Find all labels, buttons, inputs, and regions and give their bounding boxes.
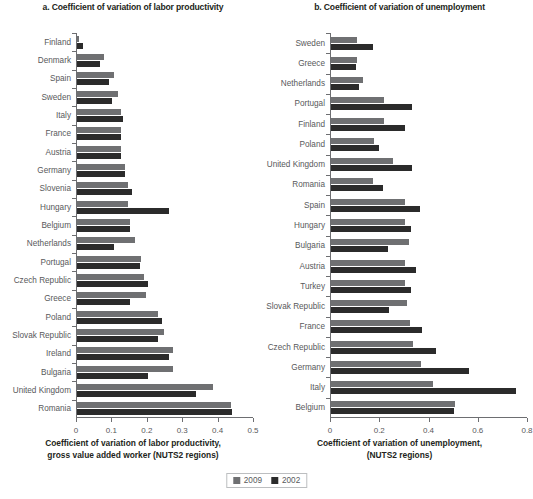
- x-tick: [330, 418, 331, 422]
- y-tick: [72, 235, 76, 236]
- bar-2002: [77, 43, 83, 49]
- bar-2002: [331, 165, 412, 171]
- category-label: Finland: [298, 118, 325, 132]
- bar-2009: [77, 146, 121, 152]
- bar-2002: [77, 391, 196, 397]
- bar-2009: [77, 91, 118, 97]
- bar-2002: [331, 348, 436, 354]
- bar-2009: [77, 201, 128, 207]
- bar-group: Finland: [331, 118, 528, 131]
- category-label: Italy: [56, 109, 71, 123]
- x-tick-label: 0.3: [177, 426, 188, 435]
- bar-2009: [331, 320, 410, 326]
- x-tick-label: 0: [74, 426, 78, 435]
- bar-2002: [331, 287, 411, 293]
- category-label: Belgium: [295, 401, 325, 415]
- category-label: Portugal: [41, 256, 72, 270]
- y-tick: [326, 74, 330, 75]
- bar-2009: [331, 97, 384, 103]
- bar-2002: [77, 153, 121, 159]
- bar-2009: [77, 311, 158, 317]
- bar-2002: [77, 171, 125, 177]
- bar-group: Hungary: [331, 219, 528, 232]
- bar-group: Italy: [331, 381, 528, 394]
- y-tick: [326, 256, 330, 257]
- bar-2009: [331, 239, 409, 245]
- x-tick: [527, 418, 528, 422]
- y-tick: [72, 51, 76, 52]
- bar-2009: [77, 366, 173, 372]
- category-label: Slovak Republic: [266, 300, 325, 314]
- bar-group: France: [77, 127, 254, 140]
- bar-2009: [77, 402, 231, 408]
- panel-a-x-axis: [76, 417, 253, 418]
- y-tick: [72, 253, 76, 254]
- bar-2002: [331, 327, 422, 333]
- bar-group: Slovak Republic: [77, 329, 254, 342]
- bar-group: Portugal: [331, 97, 528, 110]
- legend-swatch: [233, 477, 240, 484]
- y-tick: [326, 215, 330, 216]
- bar-2009: [331, 401, 455, 407]
- category-label: Denmark: [38, 54, 71, 68]
- category-label: United Kingdom: [13, 384, 71, 398]
- bar-2002: [331, 104, 412, 110]
- bar-2002: [77, 208, 169, 214]
- bar-group: Spain: [77, 72, 254, 85]
- category-label: Bulgaria: [41, 366, 71, 380]
- chart-panel-b: b. Coefficient of variation of unemploym…: [266, 0, 533, 470]
- bar-2009: [331, 361, 421, 367]
- y-tick: [72, 381, 76, 382]
- bar-2002: [77, 354, 169, 360]
- bar-group: Turkey: [331, 280, 528, 293]
- bar-group: United Kingdom: [331, 158, 528, 171]
- y-tick: [72, 308, 76, 309]
- y-tick: [326, 114, 330, 115]
- y-tick: [72, 326, 76, 327]
- bar-group: Greece: [331, 57, 528, 70]
- y-tick: [72, 143, 76, 144]
- bar-2009: [77, 164, 125, 170]
- bar-2002: [77, 318, 162, 324]
- bar-2009: [331, 178, 373, 184]
- bar-2002: [77, 61, 100, 67]
- category-label: Austria: [46, 146, 71, 160]
- figure-root: a. Coefficient of variation of labor pro…: [0, 0, 533, 499]
- bar-2002: [331, 267, 416, 273]
- category-label: Romania: [292, 178, 325, 192]
- y-tick: [326, 276, 330, 277]
- bar-group: Italy: [77, 109, 254, 122]
- bar-2009: [77, 219, 130, 225]
- bar-2002: [77, 189, 132, 195]
- bar-2002: [331, 368, 469, 374]
- bar-2002: [331, 226, 411, 232]
- category-label: Czech Republic: [268, 341, 325, 355]
- bar-2002: [77, 409, 232, 415]
- y-tick: [326, 236, 330, 237]
- bar-group: United Kingdom: [77, 384, 254, 397]
- panel-b-title: b. Coefficient of variation of unemploym…: [266, 2, 533, 12]
- category-label: Hungary: [40, 201, 71, 215]
- panel-b-x-axis-caption-line2: (NUTS2 regions): [266, 450, 533, 462]
- panel-a-x-axis-caption: Coefficient of variation of labor produc…: [0, 438, 266, 461]
- bar-2002: [77, 98, 112, 104]
- bar-2002: [331, 246, 388, 252]
- bar-group: Belgium: [77, 219, 254, 232]
- bar-group: Romania: [331, 178, 528, 191]
- panel-b-plot-area: 00.20.40.60.8SwedenGreeceNetherlandsPort…: [330, 33, 527, 418]
- y-tick: [72, 216, 76, 217]
- bar-group: France: [331, 320, 528, 333]
- y-tick: [72, 88, 76, 89]
- bar-group: Bulgaria: [77, 366, 254, 379]
- bar-group: Czech Republic: [77, 274, 254, 287]
- bar-group: Czech Republic: [331, 341, 528, 354]
- bar-2009: [331, 37, 357, 43]
- x-tick: [429, 418, 430, 422]
- bar-2009: [331, 300, 407, 306]
- x-tick-label: 0: [328, 426, 332, 435]
- panel-a-plot-area: 00.10.20.30.40.5FinlandDenmarkSpainSwede…: [76, 33, 253, 418]
- category-label: Poland: [300, 138, 326, 152]
- bar-2009: [77, 347, 173, 353]
- bar-group: Germany: [77, 164, 254, 177]
- figure-legend: 20092002: [226, 473, 307, 488]
